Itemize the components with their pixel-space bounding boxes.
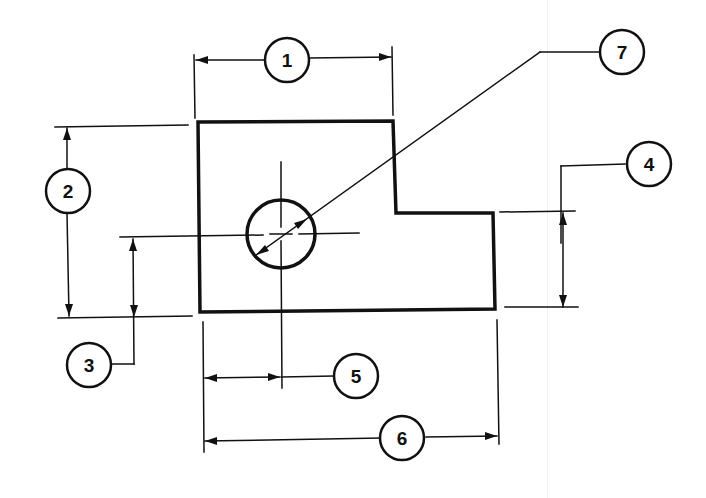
callout-3: 3 — [67, 343, 111, 387]
arrowheads — [63, 53, 567, 445]
part-outline — [198, 121, 495, 312]
svg-text:6: 6 — [397, 428, 408, 449]
callout-2: 2 — [46, 169, 90, 213]
centerlines — [120, 162, 359, 388]
callout-6: 6 — [380, 416, 424, 460]
svg-text:1: 1 — [282, 50, 293, 71]
technical-drawing: 1 2 3 4 5 6 7 — [0, 0, 706, 498]
svg-text:7: 7 — [617, 42, 628, 63]
callout-7: 7 — [600, 30, 644, 74]
callout-1: 1 — [265, 38, 309, 82]
callout-5: 5 — [334, 354, 378, 398]
svg-text:2: 2 — [63, 181, 74, 202]
callout-4: 4 — [627, 142, 671, 186]
svg-text:5: 5 — [351, 366, 362, 387]
svg-text:4: 4 — [644, 154, 655, 175]
svg-text:3: 3 — [84, 355, 95, 376]
